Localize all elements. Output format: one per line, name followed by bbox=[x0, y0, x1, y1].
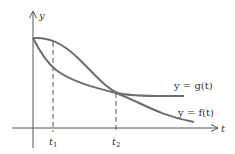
curve-g-label: y = g(t) bbox=[173, 80, 213, 91]
diagram-canvas: y t y = g(t) y = f(t) t1 t2 bbox=[0, 0, 235, 154]
tick-t2-label: t2 bbox=[112, 136, 121, 149]
curve-f-label: y = f(t) bbox=[177, 107, 214, 118]
curve-f bbox=[33, 38, 194, 122]
t-axis-label: t bbox=[221, 123, 226, 134]
y-axis-label: y bbox=[38, 10, 45, 21]
tick-t1-label: t1 bbox=[49, 136, 58, 149]
curve-g bbox=[33, 38, 184, 96]
